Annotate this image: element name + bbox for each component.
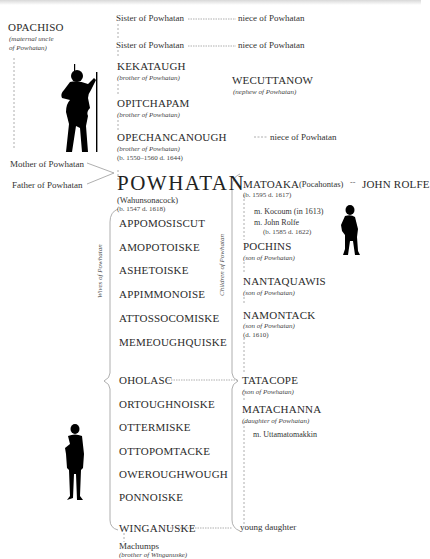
- wife-ashetoiske: ASHETOISKE: [119, 264, 189, 276]
- nantaquawis-note: (son of Powhatan): [243, 289, 295, 297]
- young-daughter: young daughter: [240, 522, 296, 532]
- opechancanough-name: OPECHANCANOUGH: [117, 131, 227, 143]
- namontack-note: (son of Powhatan): [243, 322, 295, 330]
- wife-ottopomtacke: OTTOPOMTACKE: [119, 445, 210, 457]
- tatacope-note: (son of Powhatan): [242, 388, 294, 396]
- wife-appimmonoise: APPIMMONOISE: [119, 288, 205, 300]
- children-label: Children of Powhatan: [218, 234, 226, 296]
- kekataugh-name: KEKATAUGH: [117, 60, 186, 72]
- wife-oweroughwough: OWEROUGHWOUGH: [119, 468, 228, 480]
- opachiso-note-1: (maternal uncle: [9, 35, 54, 43]
- matachanna-name: MATACHANNA: [242, 403, 321, 415]
- wecuttanow-name: WECUTTANOW: [232, 74, 313, 86]
- opitchapam-name: OPITCHAPAM: [117, 97, 190, 109]
- namontack-name: NAMONTACK: [243, 309, 315, 321]
- sister-1: Sister of Powhatan: [116, 13, 184, 23]
- powhatan-name: POWHATAN: [117, 171, 245, 196]
- wife-winganuske: WINGANUSKE: [119, 522, 196, 534]
- wife-appomosiscut: APPOMOSISCUT: [119, 217, 205, 229]
- pochins-name: POCHINS: [243, 240, 291, 252]
- namontack-dates: (d. 1610): [243, 331, 269, 339]
- john-rolfe-name: JOHN ROLFE: [362, 178, 430, 190]
- pochins-note: (son of Powhatan): [243, 254, 295, 262]
- matoaka-dates: (b. 1595 d. 1617): [243, 191, 291, 199]
- nantaquawis-name: NANTAQUAWIS: [243, 275, 326, 287]
- wife-attossocomiske: ATTOSSOCOMISKE: [119, 312, 219, 324]
- wife-ottermiske: OTTERMISKE: [119, 421, 191, 433]
- father-of-powhatan: Father of Powhatan: [12, 180, 82, 190]
- john-rolfe-dates: (b. 1585 d. 1622): [263, 228, 311, 236]
- matachanna-marriage: m. Uttamatomakkin: [253, 430, 317, 439]
- opachiso-note-2: of Powhatan): [9, 44, 47, 52]
- wife-oholasc: OHOLASC: [119, 374, 172, 386]
- opachiso-name: OPACHISO: [8, 21, 64, 33]
- sister-2: Sister of Powhatan: [116, 40, 184, 50]
- niece-1: niece of Powhatan: [238, 13, 304, 23]
- matoaka-alias: (Pocahontas): [299, 179, 343, 189]
- warrior-silhouette: [58, 64, 106, 154]
- opitchapam-note: (brother of Powhatan): [117, 111, 180, 119]
- niece-3: niece of Powhatan: [270, 132, 336, 142]
- matoaka-marriage-1: m. Kocoum (in 1613): [254, 207, 323, 216]
- powhatan-alias: (Wahunsonacock): [117, 195, 178, 205]
- machumps-note: (brother of Winganuske): [119, 551, 187, 559]
- matoaka-name: MATOAKA: [243, 178, 299, 190]
- matachanna-note: (daughter of Powhatan): [242, 417, 309, 425]
- wife-memeoughquiske: MEMEOUGHQUISKE: [119, 336, 227, 348]
- wife-amopotoiske: AMOPOTOISKE: [119, 241, 200, 253]
- man-silhouette: [64, 424, 86, 502]
- kekataugh-note: (brother of Powhatan): [117, 74, 180, 82]
- wife-ponnoiske: PONNOISKE: [119, 491, 183, 503]
- opechancanough-note: (brother of Powhatan): [117, 145, 180, 153]
- child-silhouette: [340, 205, 362, 257]
- opechancanough-dates: (b. 1550–1560 d. 1644): [117, 154, 183, 162]
- matoaka-marriage-2: m. John Rolfe: [254, 218, 299, 227]
- niece-2: niece of Powhatan: [238, 40, 304, 50]
- tatacope-name: TATACOPE: [242, 374, 298, 386]
- powhatan-dates: (b. 1547 d. 1618): [117, 205, 165, 213]
- mother-of-powhatan: Mother of Powhatan: [10, 159, 84, 169]
- wecuttanow-note: (nephew of Powhatan): [233, 88, 296, 96]
- wife-ortoughnoiske: ORTOUGHNOISKE: [119, 398, 215, 410]
- matoaka-spouse-dash: --: [350, 178, 355, 187]
- wives-label: Wives of Powhatan: [96, 244, 104, 298]
- machumps-name: Machumps: [119, 541, 159, 551]
